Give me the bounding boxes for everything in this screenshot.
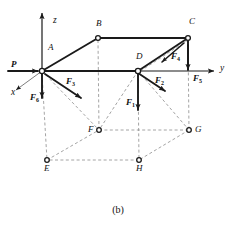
force-label-F2: F2 bbox=[155, 76, 164, 86]
joint-markers-group bbox=[39, 36, 191, 163]
joint-marker-F bbox=[97, 128, 102, 133]
vertex-label-A: A bbox=[48, 43, 54, 52]
axis-x-line bbox=[16, 71, 42, 90]
joint-marker-G bbox=[187, 128, 192, 133]
edge-B-F bbox=[98, 40, 99, 130]
force-label-F6: F6 bbox=[30, 93, 39, 103]
axis-label-x: x bbox=[11, 88, 15, 98]
axes-group bbox=[16, 13, 214, 90]
force-label-F3: F3 bbox=[66, 77, 75, 87]
force-label-F4-sub: 4 bbox=[177, 56, 180, 62]
force-label-F3-sub: 3 bbox=[72, 81, 75, 87]
force-label-P: P bbox=[11, 60, 17, 69]
force-label-F6-sub: 6 bbox=[36, 97, 39, 103]
force-diagram-svg bbox=[0, 0, 236, 228]
figure-panel: z y x A B C D E F G H P F1 F2 F3 F4 F5 F… bbox=[0, 0, 236, 228]
joint-marker-B bbox=[96, 36, 101, 41]
force-label-F2-sub: 2 bbox=[161, 80, 164, 86]
force-label-F1-sub: 1 bbox=[132, 102, 135, 108]
figure-caption: (b) bbox=[0, 204, 236, 215]
force-label-F4: F4 bbox=[171, 52, 180, 62]
edge-C-D-diag bbox=[139, 40, 188, 72]
frame-members-group bbox=[42, 38, 188, 71]
axis-label-z: z bbox=[53, 16, 57, 26]
joint-marker-D bbox=[135, 68, 140, 73]
vertex-label-E: E bbox=[44, 164, 50, 173]
edge-E-F bbox=[47, 130, 99, 160]
vertex-label-C: C bbox=[189, 17, 195, 26]
force-label-P-text: P bbox=[11, 59, 17, 69]
joint-marker-A bbox=[39, 68, 44, 73]
joint-marker-C bbox=[186, 36, 191, 41]
force-label-F5: F5 bbox=[193, 74, 202, 84]
axis-label-y: y bbox=[220, 64, 224, 74]
force-label-F1: F1 bbox=[126, 98, 135, 108]
joint-marker-H bbox=[137, 158, 142, 163]
vertex-label-D: D bbox=[136, 52, 143, 61]
member-D-C bbox=[138, 38, 188, 71]
force-label-F5-sub: 5 bbox=[199, 78, 202, 84]
vertex-label-G: G bbox=[195, 125, 202, 134]
vertex-label-F: F bbox=[88, 125, 94, 134]
vertex-label-H: H bbox=[136, 164, 143, 173]
force-vector-F3 bbox=[45, 74, 81, 98]
edge-G-H bbox=[139, 130, 189, 160]
vertex-label-B: B bbox=[96, 19, 102, 28]
joint-marker-E bbox=[45, 158, 50, 163]
